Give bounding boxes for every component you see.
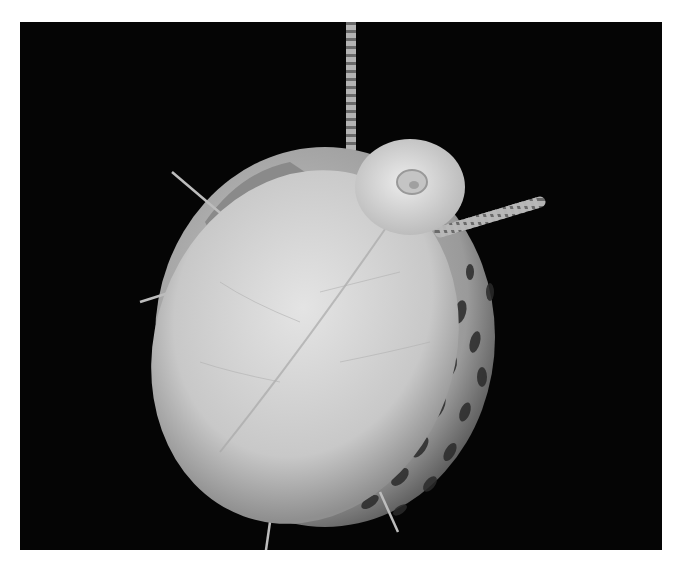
photo-frame: [20, 22, 662, 550]
top-tentacle: [346, 22, 356, 167]
snail-photo: [20, 22, 662, 550]
snail-head: [355, 139, 465, 235]
